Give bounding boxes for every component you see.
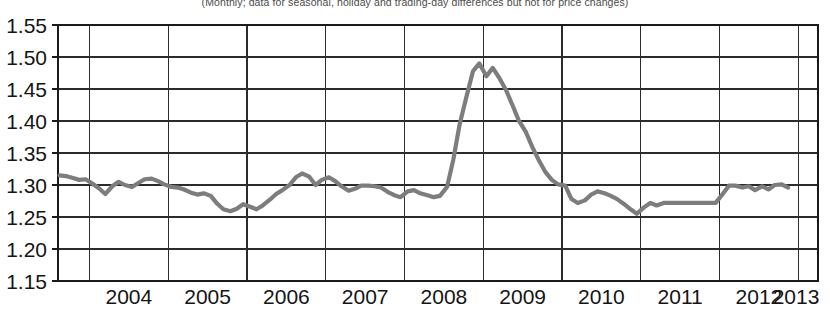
axis-tick-marks bbox=[52, 25, 58, 281]
y-axis-tick-label: 1.40 bbox=[6, 110, 47, 133]
x-axis-tick-label: 2006 bbox=[263, 285, 310, 308]
y-axis-tick-label: 1.55 bbox=[6, 14, 47, 37]
x-axis-labels: 2004200520062007200820092010201120122013 bbox=[106, 285, 820, 308]
x-axis-tick-label: 2005 bbox=[184, 285, 231, 308]
y-axis-tick-label: 1.45 bbox=[6, 78, 47, 101]
y-axis-labels: 1.551.501.451.401.351.301.251.201.15 bbox=[6, 14, 47, 293]
x-axis-tick-label: 2013 bbox=[773, 285, 820, 308]
line-chart-figure: (Monthly; data for seasonal, holiday and… bbox=[0, 0, 830, 312]
x-axis-tick-label: 2009 bbox=[499, 285, 546, 308]
y-axis-tick-label: 1.50 bbox=[6, 46, 47, 69]
x-axis-tick-label: 2008 bbox=[421, 285, 468, 308]
chart-plot-area: 1.551.501.451.401.351.301.251.201.15 200… bbox=[0, 0, 830, 312]
y-axis-tick-label: 1.35 bbox=[6, 142, 47, 165]
x-axis-tick-label: 2010 bbox=[578, 285, 625, 308]
y-axis-tick-label: 1.30 bbox=[6, 174, 47, 197]
data-series-line bbox=[60, 63, 788, 213]
x-axis-tick-label: 2004 bbox=[106, 285, 153, 308]
y-axis-tick-label: 1.15 bbox=[6, 270, 47, 293]
y-axis-tick-label: 1.20 bbox=[6, 238, 47, 261]
horizontal-gridlines bbox=[58, 57, 818, 249]
y-axis-tick-label: 1.25 bbox=[6, 206, 47, 229]
x-axis-tick-label: 2007 bbox=[342, 285, 389, 308]
x-axis-tick-label: 2011 bbox=[658, 285, 703, 308]
